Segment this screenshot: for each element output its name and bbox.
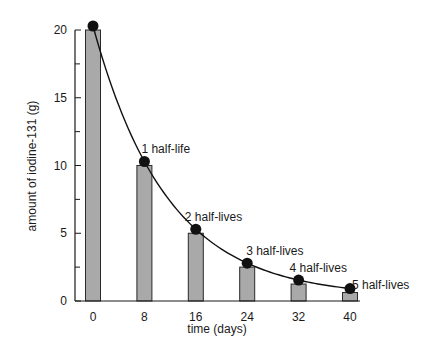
y-tick-label: 20 [54,23,68,37]
decay-curve-line [93,26,350,289]
half-life-annotation: 2 half-lives [185,210,242,224]
data-point-marker [242,258,253,269]
bar [137,166,152,302]
y-tick-label: 5 [60,226,67,240]
x-tick-label: 40 [343,310,357,324]
y-tick-label: 0 [60,294,67,308]
half-life-chart: 05101520 0816243240 1 half-life2 half-li… [0,0,434,350]
data-point-marker [190,224,201,235]
x-tick-label: 8 [141,310,148,324]
half-life-annotation: 1 half-life [141,142,190,156]
data-markers [88,21,356,295]
x-tick-label: 32 [292,310,306,324]
bar [240,267,255,301]
annotations: 1 half-life2 half-lives3 half-lives4 hal… [141,142,409,292]
x-tick-label: 0 [90,310,97,324]
half-life-annotation: 3 half-lives [246,244,303,258]
decay-curve [93,26,350,289]
half-life-annotation: 5 half-lives [352,278,409,292]
bar [86,30,101,301]
y-tick-label: 10 [54,159,68,173]
half-life-annotation: 4 half-lives [290,261,347,275]
data-point-marker [293,275,304,286]
bar [291,284,306,301]
x-axis-title: time (days) [187,322,246,336]
bar [188,233,203,301]
data-point-marker [88,21,99,32]
y-axis-ticks: 05101520 [54,23,81,308]
y-tick-label: 15 [54,91,68,105]
y-axis-title: amount of iodine-131 (g) [25,101,39,232]
data-point-marker [139,156,150,167]
